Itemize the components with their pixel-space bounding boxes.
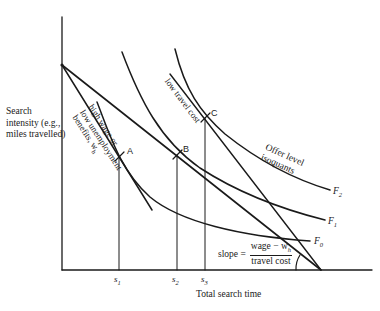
slope-annotation: slope = wage − wh travel cost (218, 241, 292, 267)
diagram-canvas (0, 0, 380, 311)
isoquant-f2-label: F2 (333, 186, 342, 200)
slope-prefix: slope = (218, 249, 246, 259)
point-b-label: B (183, 144, 189, 155)
point-c-label: C (211, 108, 218, 119)
x-axis-label: Total search time (196, 289, 261, 300)
y-axis-label: Search intensity (e.g., miles travelled) (6, 106, 66, 141)
slope-angle-arc (296, 255, 300, 270)
isoquant-f1-label: F1 (328, 216, 337, 230)
isoquant-f0-label: F0 (314, 236, 323, 250)
intercept-dot (60, 63, 63, 66)
tick-s3: s3 (201, 274, 208, 288)
tick-s2: s2 (172, 274, 179, 288)
isoquant-f0 (97, 102, 310, 241)
slope-denominator: travel cost (250, 256, 292, 267)
slope-numerator: wage − wh (250, 241, 292, 256)
tick-s1: s1 (114, 274, 121, 288)
